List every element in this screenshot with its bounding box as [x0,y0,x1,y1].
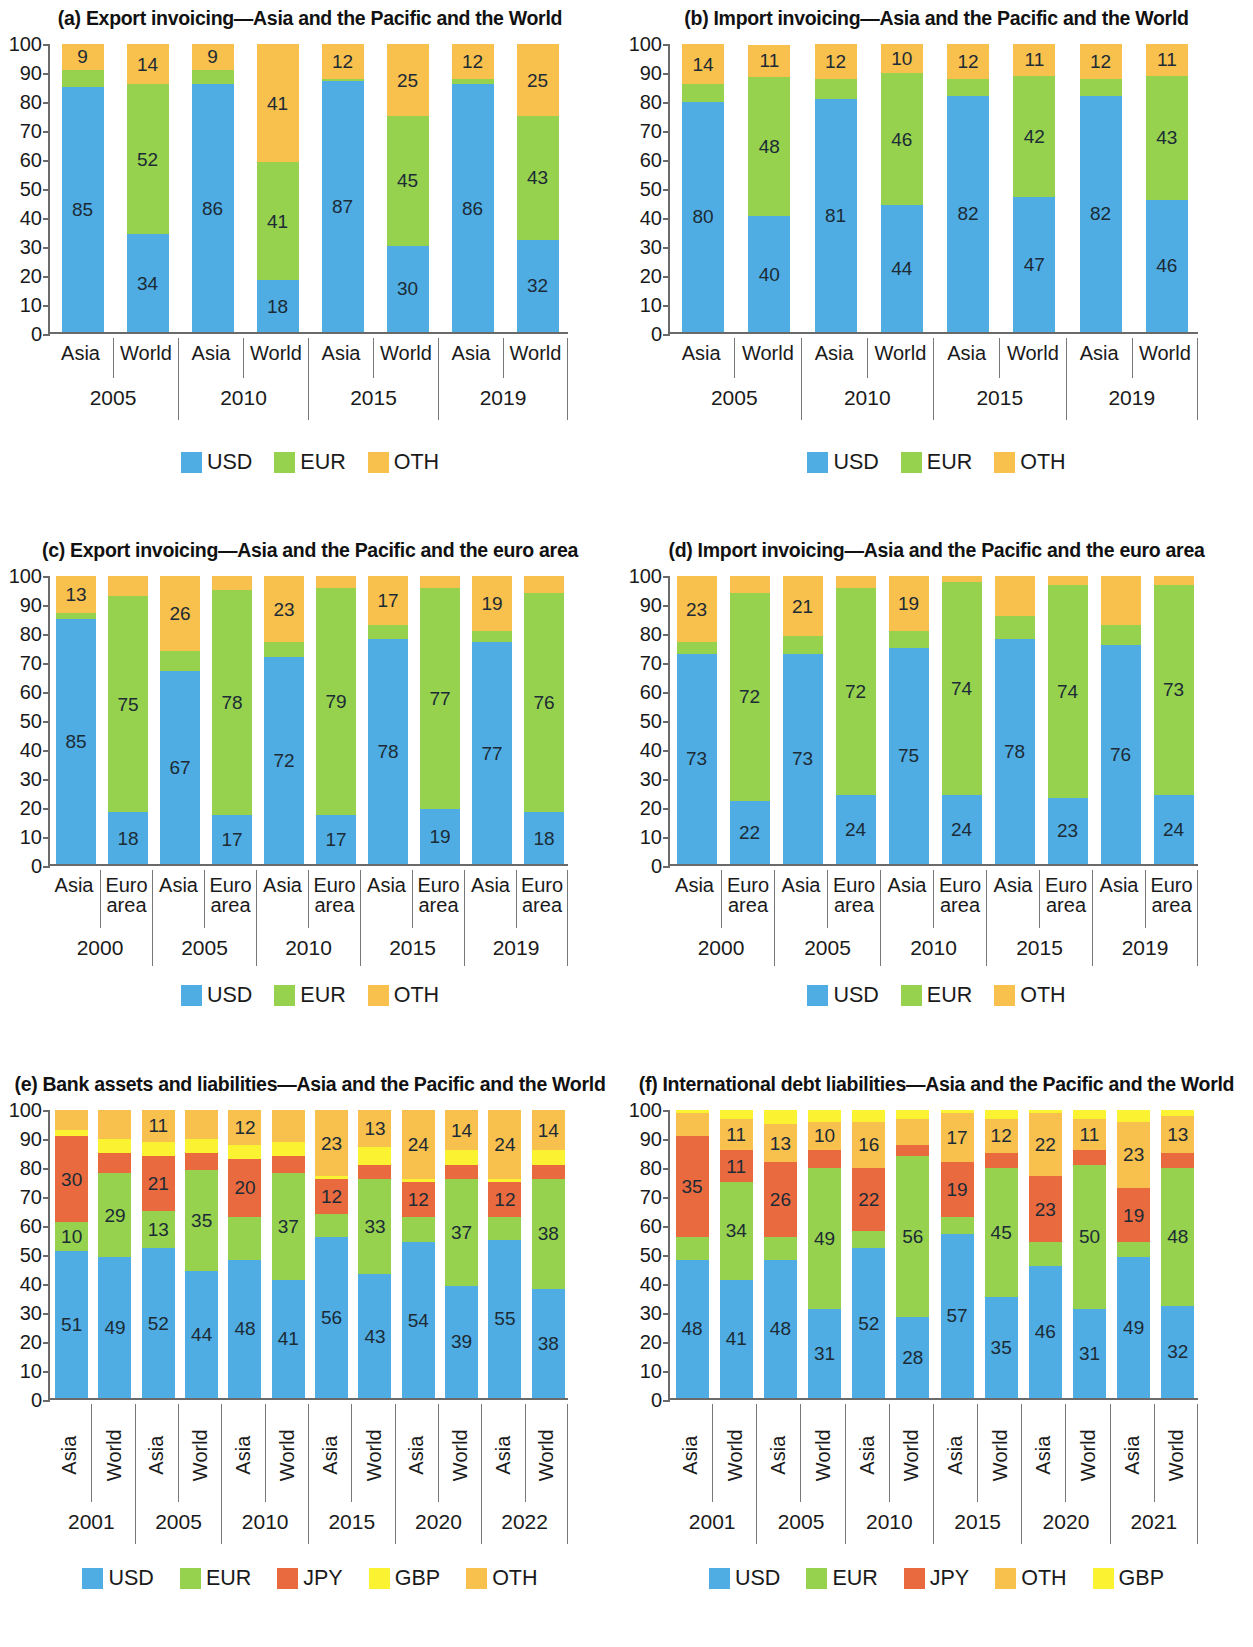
legend-item-eur[interactable]: EUR [901,452,972,474]
stacked-bar[interactable]: 52132111 [142,1110,175,1398]
stacked-bar[interactable]: 551224 [488,1110,521,1398]
legend-item-eur[interactable]: EUR [806,1568,877,1590]
bar-segment-usd: 22 [730,801,770,864]
legend-item-jpy[interactable]: JPY [904,1568,969,1590]
stacked-bar[interactable]: 491923 [1117,1110,1150,1398]
stacked-bar[interactable]: 462322 [1029,1110,1062,1398]
stacked-bar[interactable]: 404811 [748,44,790,332]
stacked-bar[interactable]: 41341111 [720,1110,753,1398]
legend-item-oth[interactable]: OTH [368,452,439,474]
legend-item-usd[interactable]: USD [82,1568,153,1590]
bar-segment-usd: 44 [185,1271,218,1398]
stacked-bar[interactable]: 8513 [56,576,96,864]
bar-segment-oth: 23 [1117,1122,1150,1188]
stacked-bar[interactable]: 4137 [272,1110,305,1398]
stacked-bar[interactable]: 2272 [730,576,770,864]
legend-item-oth[interactable]: OTH [368,985,439,1007]
stacked-bar[interactable]: 314910 [808,1110,841,1398]
legend-item-eur[interactable]: EUR [274,452,345,474]
stacked-bar[interactable]: 76 [1101,576,1141,864]
legend-item-usd[interactable]: USD [807,985,878,1007]
stacked-bar[interactable]: 7719 [472,576,512,864]
stacked-bar[interactable]: 1977 [420,576,460,864]
bar-value-label: 17 [946,1128,967,1147]
stacked-bar[interactable]: 8212 [1080,44,1122,332]
legend-item-jpy[interactable]: JPY [277,1568,342,1590]
stacked-bar[interactable]: 7519 [889,576,929,864]
y-tick-label: 0 [651,324,662,344]
bar-segment-eur: 50 [1073,1165,1106,1309]
legend-item-oth[interactable]: OTH [995,1568,1066,1590]
stacked-bar[interactable]: 482613 [764,1110,797,1398]
stacked-bar[interactable]: 383814 [532,1110,565,1398]
legend-item-eur[interactable]: EUR [180,1568,251,1590]
stacked-bar[interactable]: 444610 [881,44,923,332]
stacked-bar[interactable]: 2474 [942,576,982,864]
bar-value-label: 12 [1090,52,1111,71]
legend-item-eur[interactable]: EUR [901,985,972,1007]
stacked-bar[interactable]: 869 [192,44,234,332]
stacked-bar[interactable]: 482012 [228,1110,261,1398]
bar-value-label: 46 [1035,1322,1056,1341]
stacked-bar[interactable]: 541224 [402,1110,435,1398]
stacked-bar[interactable]: 393714 [445,1110,478,1398]
legend-item-oth[interactable]: OTH [994,452,1065,474]
stacked-bar[interactable]: 315011 [1073,1110,1106,1398]
bar-segment-jpy: 23 [1029,1176,1062,1242]
stacked-bar[interactable]: 7321 [783,576,823,864]
bar-value-label: 24 [845,820,866,839]
legend-item-usd[interactable]: USD [709,1568,780,1590]
legend-item-eur[interactable]: EUR [274,985,345,1007]
x-category-text: Asia [309,343,373,363]
stacked-bar[interactable]: 859 [62,44,104,332]
figure-grid: (a) Export invoicing—Asia and the Pacifi… [0,0,1253,1647]
stacked-bar[interactable]: 561223 [315,1110,348,1398]
stacked-bar[interactable]: 1875 [108,576,148,864]
legend-item-oth[interactable]: OTH [994,985,1065,1007]
stacked-bar[interactable]: 7323 [677,576,717,864]
stacked-bar[interactable]: 78 [995,576,1035,864]
stacked-bar[interactable]: 2374 [1048,576,1088,864]
legend-item-gbp[interactable]: GBP [369,1568,440,1590]
stacked-bar[interactable]: 184141 [257,44,299,332]
stacked-bar[interactable]: 6726 [160,576,200,864]
bar-segment-oth [1154,576,1194,585]
stacked-bar[interactable]: 1876 [524,576,564,864]
stacked-bar[interactable]: 8212 [947,44,989,332]
stacked-bar[interactable]: 464311 [1146,44,1188,332]
stacked-bar[interactable]: 433313 [358,1110,391,1398]
stacked-bar[interactable]: 1779 [316,576,356,864]
stacked-bar[interactable]: 1778 [212,576,252,864]
stacked-bar[interactable]: 304525 [387,44,429,332]
stacked-bar[interactable]: 4929 [98,1110,131,1398]
stacked-bar[interactable]: 8014 [682,44,724,332]
stacked-bar[interactable]: 2856 [896,1110,929,1398]
stacked-bar[interactable]: 474211 [1013,44,1055,332]
stacked-bar[interactable]: 511030 [55,1110,88,1398]
stacked-bar[interactable]: 4435 [185,1110,218,1398]
stacked-bar[interactable]: 345214 [127,44,169,332]
stacked-bar[interactable]: 571917 [941,1110,974,1398]
legend-item-oth[interactable]: OTH [466,1568,537,1590]
stacked-bar[interactable]: 7817 [368,576,408,864]
stacked-bar[interactable]: 8612 [452,44,494,332]
stacked-bar[interactable]: 8112 [815,44,857,332]
legend-item-usd[interactable]: USD [807,452,878,474]
y-tick-mark [663,44,670,46]
stacked-bar[interactable]: 2472 [836,576,876,864]
stacked-bar[interactable]: 7223 [264,576,304,864]
stacked-bar[interactable]: 324813 [1161,1110,1194,1398]
stacked-bar[interactable]: 354512 [985,1110,1018,1398]
stacked-bar[interactable]: 2473 [1154,576,1194,864]
legend-item-gbp[interactable]: GBP [1093,1568,1164,1590]
x-group-label: 2005 [756,1502,844,1544]
bar-segment-eur: 74 [942,582,982,795]
stacked-bar[interactable]: 324325 [517,44,559,332]
y-tick-label: 40 [640,1274,662,1294]
x-axis-e: AsiaWorldAsiaWorldAsiaWorldAsiaWorldAsia… [48,1404,568,1544]
stacked-bar[interactable]: 8712 [322,44,364,332]
stacked-bar[interactable]: 522216 [852,1110,885,1398]
stacked-bar[interactable]: 4835 [676,1110,709,1398]
legend-item-usd[interactable]: USD [181,452,252,474]
legend-item-usd[interactable]: USD [181,985,252,1007]
